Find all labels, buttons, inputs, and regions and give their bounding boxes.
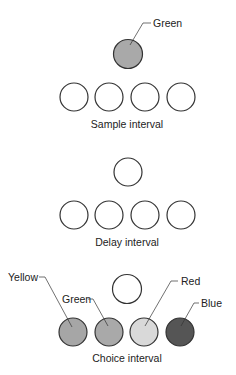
matching-to-sample-diagram: Green Sample interval Delay interval Yel… bbox=[0, 0, 236, 375]
choice-interval-caption: Choice interval bbox=[92, 352, 161, 364]
choice-red-label: Red bbox=[181, 275, 200, 287]
side-key-4 bbox=[167, 83, 195, 111]
side-key-green bbox=[95, 318, 123, 346]
side-key-2 bbox=[95, 201, 123, 229]
center-key-green bbox=[114, 40, 143, 69]
side-key-blue bbox=[166, 318, 194, 346]
sample-interval-caption: Sample interval bbox=[91, 118, 163, 130]
choice-yellow-label: Yellow bbox=[8, 271, 38, 283]
side-key-4 bbox=[167, 201, 195, 229]
center-key-empty bbox=[114, 158, 142, 186]
choice-green-label: Green bbox=[62, 293, 91, 305]
side-key-red bbox=[130, 318, 158, 346]
choice-blue-label: Blue bbox=[201, 297, 222, 309]
side-key-3 bbox=[131, 83, 159, 111]
sample-interval-panel: Green Sample interval bbox=[60, 17, 195, 130]
delay-interval-caption: Delay interval bbox=[95, 236, 159, 248]
center-key-empty bbox=[113, 275, 142, 304]
side-key-1 bbox=[60, 201, 88, 229]
side-key-yellow bbox=[59, 318, 87, 346]
sample-green-label: Green bbox=[153, 17, 182, 29]
side-key-3 bbox=[131, 201, 159, 229]
delay-interval-panel: Delay interval bbox=[60, 158, 195, 248]
side-key-2 bbox=[95, 83, 123, 111]
side-key-1 bbox=[60, 83, 88, 111]
choice-interval-panel: Yellow Green Red Blue Choice interval bbox=[8, 271, 222, 364]
